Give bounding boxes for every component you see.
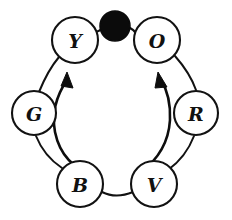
node-green[interactable]: G (12, 91, 56, 135)
node-red-label: R (187, 103, 204, 125)
link-green-yellow (39, 57, 59, 92)
flow-arrow-right-shaft (141, 80, 170, 172)
node-blue[interactable]: B (57, 161, 103, 207)
diagram-canvas: Y O R V B (0, 0, 232, 220)
node-black-dot-circle[interactable] (100, 11, 130, 41)
link-red-violet (168, 136, 194, 170)
node-black-dot[interactable] (100, 11, 130, 41)
node-violet[interactable]: V (131, 161, 177, 207)
node-orange-label: O (149, 30, 166, 52)
node-blue-label: B (71, 174, 88, 196)
flow-arrow-right-head (155, 72, 167, 88)
nodes: Y O R V B (12, 11, 218, 207)
node-violet-label: V (147, 174, 164, 196)
node-yellow[interactable]: Y (52, 17, 98, 63)
link-violet-blue (102, 192, 133, 196)
node-red[interactable]: R (174, 91, 218, 135)
link-orange-red (175, 56, 196, 90)
node-orange[interactable]: O (134, 17, 180, 63)
color-cycle-diagram: Y O R V B (0, 0, 232, 220)
flow-arrow-left-head (61, 72, 73, 88)
node-green-label: G (26, 103, 42, 125)
